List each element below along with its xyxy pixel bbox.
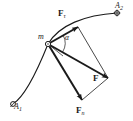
trajectory-curve [13, 44, 48, 104]
label-point-a1: A1 [14, 103, 22, 112]
label-angle-alpha: α [65, 34, 69, 42]
label-point-a2: A2 [115, 2, 123, 11]
vector-force-tangential [48, 27, 78, 44]
label-force-resultant-symbol: F [93, 73, 99, 83]
label-force-normal-subscript: n [82, 110, 85, 116]
label-point-a1-subscript: 1 [19, 106, 22, 112]
label-point-a2-subscript: 2 [120, 5, 123, 11]
label-force-normal: Fn [76, 106, 85, 116]
physics-force-diagram: Fτ F Fn m A1 A2 α [0, 0, 133, 121]
vector-force-normal [48, 44, 82, 100]
label-mass: m [38, 33, 44, 41]
label-angle-alpha-symbol: α [65, 33, 69, 42]
label-force-tangential-subscript: τ [64, 13, 66, 19]
point-marker-m [45, 41, 50, 46]
label-mass-symbol: m [38, 32, 44, 41]
vector-force-resultant [48, 44, 108, 78]
label-force-tangential: Fτ [58, 9, 66, 19]
label-force-resultant: F [93, 74, 99, 83]
